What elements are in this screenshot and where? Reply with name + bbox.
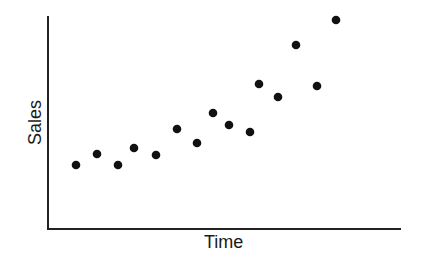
data-point — [313, 82, 322, 91]
y-axis-label: Sales — [25, 98, 46, 148]
data-point — [225, 121, 234, 130]
data-point — [130, 144, 139, 153]
data-points — [72, 16, 341, 170]
data-point — [274, 93, 283, 102]
data-point — [93, 150, 102, 159]
data-point — [193, 139, 202, 148]
data-point — [173, 125, 182, 134]
data-point — [209, 109, 218, 118]
data-point — [114, 161, 123, 170]
data-point — [332, 16, 341, 25]
data-point — [72, 161, 81, 170]
data-point — [152, 151, 161, 160]
data-point — [255, 80, 264, 89]
x-axis-label: Time — [204, 232, 243, 253]
data-point — [246, 128, 255, 137]
scatter-chart — [0, 0, 422, 264]
data-point — [292, 41, 301, 50]
